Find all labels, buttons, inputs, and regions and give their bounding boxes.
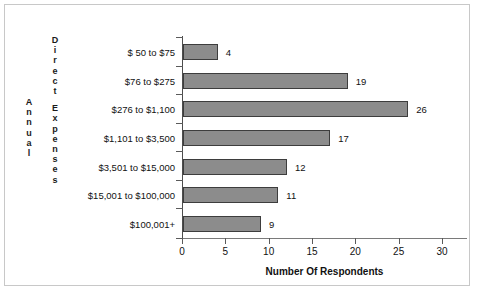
y-axis-title-annual-char: n: [23, 117, 35, 127]
x-axis-tick: [182, 238, 183, 244]
bar: [183, 216, 261, 232]
x-axis-tick-label: 25: [393, 246, 404, 257]
y-axis-title-direct-char: D: [49, 35, 61, 45]
y-axis-tick: [176, 37, 183, 38]
y-axis-title-expenses-char: n: [49, 144, 61, 154]
bar-row: $3,501 to $15,00012: [182, 152, 442, 181]
x-axis-tick: [225, 238, 226, 244]
bar: [183, 73, 348, 89]
y-axis-title-annual-char: A: [23, 97, 35, 107]
y-axis-tick: [176, 180, 183, 181]
y-axis-title-expenses-char: E: [49, 103, 61, 113]
x-axis-tick-label: 30: [436, 246, 447, 257]
category-label: $276 to $1,100: [112, 104, 175, 115]
bar: [183, 187, 278, 203]
y-axis-title-expenses-char: x: [49, 113, 61, 123]
plot-area: $ 50 to $754$76 to $27519$276 to $1,1002…: [182, 38, 442, 238]
y-axis-title-direct-char: e: [49, 66, 61, 76]
y-axis-title-annual-char: a: [23, 138, 35, 148]
bar-row: $276 to $1,10026: [182, 95, 442, 124]
bar-row: $15,001 to $100,00011: [182, 181, 442, 210]
x-axis-tick-label: 20: [350, 246, 361, 257]
bar-value-label: 11: [286, 190, 296, 201]
bar-row: $76 to $27519: [182, 67, 442, 96]
y-axis-tick: [176, 123, 183, 124]
category-label: $100,001+: [130, 218, 175, 229]
bar-value-label: 19: [356, 75, 367, 86]
bar-value-label: 9: [269, 218, 274, 229]
bar: [183, 130, 330, 146]
x-axis-tick: [355, 238, 356, 244]
y-axis-tick: [176, 151, 183, 152]
x-axis-tick-label: 10: [263, 246, 274, 257]
x-axis-tick-label: 0: [179, 246, 185, 257]
bar-value-label: 4: [226, 47, 231, 58]
bar-row: $100,001+9: [182, 209, 442, 238]
y-axis-title-direct-char: r: [49, 55, 61, 65]
x-axis-tick-label: 15: [306, 246, 317, 257]
y-axis-tick: [176, 94, 183, 95]
x-axis-tick: [399, 238, 400, 244]
y-axis-tick: [176, 66, 183, 67]
category-label: $15,001 to $100,000: [88, 190, 175, 201]
y-axis-title-expenses-char: p: [49, 124, 61, 134]
y-axis-title-expenses-char: e: [49, 134, 61, 144]
bar: [183, 44, 218, 60]
x-axis-title: Number Of Respondents: [182, 266, 467, 277]
y-axis-title-annual-char: l: [23, 148, 35, 158]
y-axis-tick: [176, 208, 183, 209]
bar: [183, 101, 408, 117]
category-label: $ 50 to $75: [127, 47, 175, 58]
bar-row: $1,101 to $3,50017: [182, 124, 442, 153]
chart-frame: A n n u a l D i r e c t E x p e n s e s …: [4, 4, 470, 286]
y-axis-title-annual: A n n u a l: [23, 97, 35, 158]
bar-value-label: 12: [295, 161, 306, 172]
y-axis-title-annual-char: n: [23, 107, 35, 117]
x-axis-tick: [312, 238, 313, 244]
x-axis-tick: [442, 238, 443, 244]
y-axis-title-direct-char: i: [49, 45, 61, 55]
y-axis-title-direct-char: t: [49, 86, 61, 96]
category-label: $3,501 to $15,000: [98, 161, 175, 172]
bar-row: $ 50 to $754: [182, 38, 442, 67]
bar-value-label: 17: [338, 133, 349, 144]
category-label: $76 to $275: [125, 75, 175, 86]
y-axis-title-expenses-char: s: [49, 154, 61, 164]
x-axis-tick: [269, 238, 270, 244]
y-axis-title-direct-expenses: D i r e c t E x p e n s e s: [49, 35, 61, 185]
y-axis-title-direct-char: c: [49, 76, 61, 86]
x-axis-tick-label: 5: [223, 246, 229, 257]
y-axis-title-annual-char: u: [23, 128, 35, 138]
bar: [183, 159, 287, 175]
category-label: $1,101 to $3,500: [104, 133, 175, 144]
y-axis-title-expenses-char: s: [49, 175, 61, 185]
y-axis-title-gap: [49, 96, 61, 103]
bar-value-label: 26: [416, 104, 427, 115]
y-axis-title-expenses-char: e: [49, 164, 61, 174]
